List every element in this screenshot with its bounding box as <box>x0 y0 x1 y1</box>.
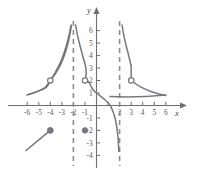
x-tick-label--6: -6 <box>24 108 30 117</box>
y-tick-label-3: 3 <box>89 64 93 73</box>
closed-point--1--2 <box>82 128 87 133</box>
x-tick-label-5: 5 <box>152 108 156 117</box>
open-point-3-2 <box>129 78 134 83</box>
closed-point--4--2 <box>47 127 53 133</box>
x-axis-arrow <box>180 102 187 108</box>
curve-middle-branch <box>76 25 119 152</box>
y-tick-label-5: 5 <box>89 39 93 48</box>
y-tick-label-4: 4 <box>89 51 93 60</box>
y-tick-label-6: 6 <box>89 26 93 35</box>
line-segment-third-quadrant <box>26 130 50 150</box>
open-point--1-2 <box>82 78 87 83</box>
plot-canvas: -6 -5 -4 -3 -2 -1 2 3 4 5 6 6 5 4 3 2 1 … <box>0 0 198 176</box>
x-tick-label-6: 6 <box>164 108 168 117</box>
curves-group <box>26 25 166 152</box>
x-tick-label--4: -4 <box>47 108 53 117</box>
y-tick-labels: 6 5 4 3 2 1 -1 -2 -3 -4 <box>86 26 92 160</box>
y-axis-arrow <box>93 7 99 14</box>
x-axis-label: x <box>174 108 179 118</box>
y-tick-label-1: 1 <box>89 89 93 98</box>
y-tick-label--3: -3 <box>86 139 92 148</box>
y-tick-label--1: -1 <box>86 114 92 123</box>
y-tick-label--4: -4 <box>86 151 92 160</box>
open-point--4-2 <box>48 78 53 83</box>
curve-right-branch <box>122 25 166 95</box>
graph-figure: -6 -5 -4 -3 -2 -1 2 3 4 5 6 6 5 4 3 2 1 … <box>0 0 198 176</box>
x-tick-label--3: -3 <box>59 108 65 117</box>
x-tick-label-4: 4 <box>141 108 145 117</box>
y-axis-label: y <box>86 5 91 15</box>
x-tick-label--5: -5 <box>36 108 42 117</box>
x-tick-label-3: 3 <box>129 108 133 117</box>
